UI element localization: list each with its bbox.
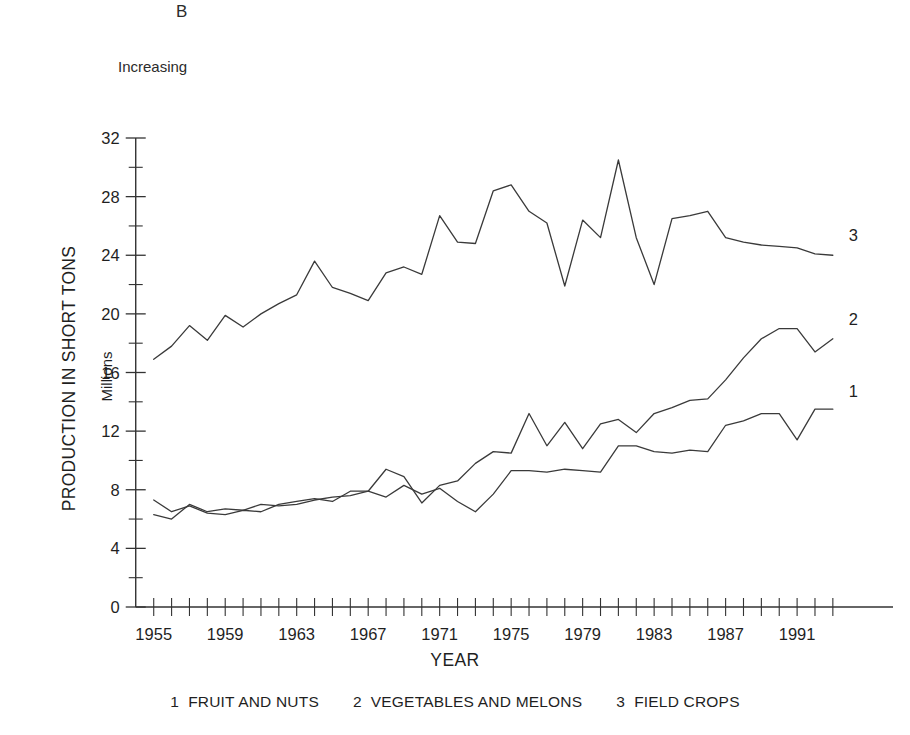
legend-item-fruit-and-nuts: 1 FRUIT AND NUTS	[170, 693, 319, 711]
plot-area: 0481216202428321955195919631967197119751…	[0, 0, 910, 735]
x-tick-label: 1983	[636, 625, 673, 643]
panel-subtitle: Increasing	[118, 58, 187, 75]
chart-figure: B Increasing PRODUCTION IN SHORT TONS Mi…	[0, 0, 910, 735]
legend-label: FRUIT AND NUTS	[188, 693, 319, 711]
x-tick-label: 1955	[135, 625, 172, 643]
legend: 1 FRUIT AND NUTS 2 VEGETABLES AND MELONS…	[0, 693, 910, 711]
legend-item-vegetables-and-melons: 2 VEGETABLES AND MELONS	[353, 693, 582, 711]
y-tick-label: 0	[111, 598, 120, 616]
y-axis-units-label: Millions	[98, 177, 115, 577]
legend-number: 3	[616, 693, 625, 711]
x-tick-label: 1971	[421, 625, 458, 643]
x-tick-label: 1991	[779, 625, 816, 643]
x-tick-label: 1959	[207, 625, 244, 643]
x-tick-label: 1979	[564, 625, 601, 643]
series-line-1	[154, 409, 833, 515]
x-tick-label: 1975	[493, 625, 530, 643]
series-end-label-1: 1	[849, 382, 858, 400]
series-end-label-3: 3	[849, 226, 858, 244]
x-tick-label: 1987	[707, 625, 744, 643]
legend-number: 1	[170, 693, 179, 711]
y-axis-label: PRODUCTION IN SHORT TONS	[59, 179, 80, 579]
series-line-3	[154, 160, 833, 359]
y-tick-label: 32	[101, 129, 119, 147]
legend-label: VEGETABLES AND MELONS	[371, 693, 583, 711]
x-tick-label: 1967	[350, 625, 387, 643]
panel-letter: B	[176, 2, 188, 22]
legend-item-field-crops: 3 FIELD CROPS	[616, 693, 739, 711]
x-axis-label: YEAR	[0, 650, 910, 671]
legend-label: FIELD CROPS	[634, 693, 740, 711]
x-tick-label: 1963	[278, 625, 315, 643]
series-end-label-2: 2	[849, 310, 858, 328]
legend-number: 2	[353, 693, 362, 711]
